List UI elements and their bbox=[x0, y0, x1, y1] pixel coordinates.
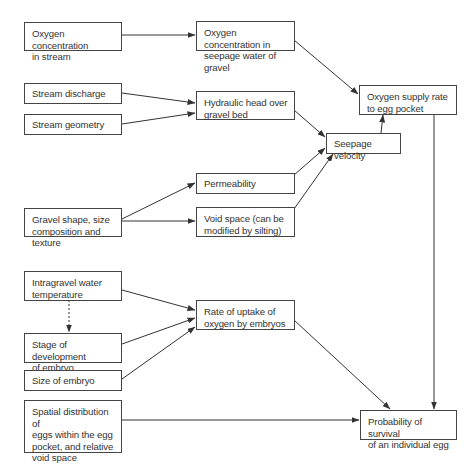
node-stream-discharge: Stream discharge bbox=[24, 83, 122, 104]
edge-o2seepage-o2supply bbox=[294, 40, 358, 94]
node-text-line: Intragravel water bbox=[32, 277, 115, 289]
node-text-line: Permeability bbox=[204, 178, 288, 190]
edge-temp-rate bbox=[122, 290, 195, 310]
node-rate-uptake: Rate of uptake of oxygen by embryos bbox=[196, 300, 295, 330]
edge-permeability-seepage bbox=[294, 148, 325, 175]
node-text-line: to egg pocket bbox=[367, 103, 450, 115]
node-void-space: Void space (can be modified by silting) bbox=[196, 207, 295, 237]
node-o2-supply: Oxygen supply rate to egg pocket bbox=[359, 85, 457, 115]
edge-void-seepage bbox=[294, 154, 333, 209]
edge-size-rate bbox=[122, 327, 195, 379]
node-hydraulic-head: Hydraulic head over gravel bed bbox=[196, 91, 295, 120]
node-text-line: oxygen by embryos bbox=[204, 318, 288, 330]
node-text-line: Hydraulic head over bbox=[204, 97, 288, 109]
node-text-line: of an individual egg bbox=[368, 439, 450, 451]
edge-rate-survival bbox=[294, 320, 390, 409]
node-text-line: composition and texture bbox=[32, 226, 115, 249]
node-survival: Probability of survival of an individual… bbox=[360, 410, 457, 440]
node-stream-geometry: Stream geometry bbox=[24, 114, 122, 135]
edge-gravel-permeability bbox=[122, 183, 195, 219]
node-text-line: Seepage velocity bbox=[334, 138, 394, 161]
node-o2-stream: Oxygen concentration in stream bbox=[24, 22, 122, 51]
node-text-line: Probability of survival bbox=[368, 416, 450, 439]
edge-seepage-o2supply bbox=[381, 115, 383, 133]
edge-stage-rate bbox=[122, 318, 195, 344]
node-water-temp: Intragravel water temperature bbox=[24, 271, 122, 301]
node-text-line: Spatial distribution of bbox=[32, 406, 115, 429]
node-text-line: gravel bed bbox=[204, 109, 288, 121]
node-text-line: modified by silting) bbox=[204, 225, 288, 237]
node-text-line: in stream bbox=[32, 51, 115, 63]
node-text-line: Oxygen concentration bbox=[32, 28, 115, 51]
node-text-line: Oxygen supply rate bbox=[367, 91, 450, 103]
node-text-line: Stage of development bbox=[32, 339, 115, 362]
node-text-line: Gravel shape, size bbox=[32, 214, 115, 226]
node-text-line: pocket, and relative bbox=[32, 441, 115, 453]
node-permeability: Permeability bbox=[196, 173, 295, 194]
node-text-line: Stream discharge bbox=[32, 88, 115, 100]
node-gravel-shape: Gravel shape, size composition and textu… bbox=[24, 208, 122, 237]
node-seepage-velocity: Seepage velocity bbox=[326, 133, 401, 154]
node-text-line: Size of embryo bbox=[32, 375, 115, 387]
node-o2-seepage: Oxygen concentration in seepage water of… bbox=[196, 21, 295, 51]
node-text-line: Stream geometry bbox=[32, 119, 115, 131]
edge-geometry-hydraulic bbox=[122, 113, 195, 124]
node-stage-dev: Stage of development of embryo bbox=[24, 333, 122, 363]
node-text-line: void space bbox=[32, 452, 115, 464]
node-text-line: seepage water of gravel bbox=[204, 50, 288, 73]
node-text-line: Rate of uptake of bbox=[204, 306, 288, 318]
edge-hydraulic-seepage bbox=[294, 110, 325, 137]
edge-discharge-hydraulic bbox=[122, 93, 195, 103]
node-size-embryo: Size of embryo bbox=[24, 370, 122, 391]
node-spatial-dist: Spatial distribution of eggs within the … bbox=[24, 400, 122, 453]
node-text-line: Void space (can be bbox=[204, 213, 288, 225]
node-text-line: Oxygen concentration in bbox=[204, 27, 288, 50]
node-text-line: temperature bbox=[32, 289, 115, 301]
node-text-line: eggs within the egg bbox=[32, 429, 115, 441]
